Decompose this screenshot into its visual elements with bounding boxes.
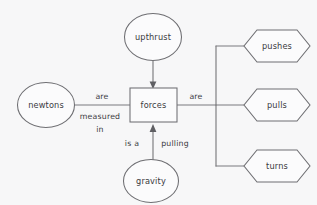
node-turns[interactable]: turns [244, 150, 310, 182]
edge-label-are-left: are [95, 92, 108, 101]
pushes-label: pushes [262, 41, 292, 51]
connector-gravity-to-forces [150, 124, 157, 160]
node-upthrust[interactable]: upthrust [125, 14, 182, 61]
connector-upthrust-to-forces [150, 61, 157, 89]
upthrust-label: upthrust [135, 32, 172, 42]
edge-label-in: in [96, 125, 104, 134]
turns-label: turns [266, 161, 288, 171]
arrow-up-icon [150, 124, 157, 132]
edge-label-is-a: is a [125, 139, 139, 148]
forces-label: forces [141, 100, 167, 110]
gravity-label: gravity [136, 176, 166, 186]
node-gravity[interactable]: gravity [124, 160, 179, 203]
newtons-label: newtons [28, 100, 64, 110]
edge-label-pulling: pulling [161, 139, 189, 148]
diagram-canvas: upthrust newtons forces gravity pushes p… [0, 0, 317, 205]
pulls-label: pulls [267, 100, 287, 110]
edge-label-measured: measured [80, 112, 121, 121]
node-pulls[interactable]: pulls [244, 89, 310, 121]
concept-map-diagram: upthrust newtons forces gravity pushes p… [0, 0, 317, 205]
edge-label-are-right: are [189, 92, 202, 101]
node-forces[interactable]: forces [130, 88, 177, 122]
node-pushes[interactable]: pushes [244, 30, 310, 62]
node-newtons[interactable]: newtons [18, 83, 75, 128]
